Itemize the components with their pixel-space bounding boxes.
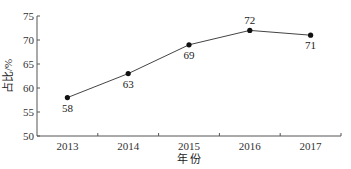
data-label: 69 (184, 49, 196, 61)
x-axis: 20132014201520162017 (37, 133, 341, 152)
x-tick-label: 2013 (56, 140, 79, 152)
x-tick-label: 2014 (117, 140, 140, 152)
y-tick-label: 50 (23, 130, 35, 142)
data-point-marker (126, 71, 131, 76)
y-tick-label: 75 (23, 10, 35, 22)
data-label: 71 (305, 39, 316, 51)
line-chart: 505560657075 20132014201520162017 占比/% 年… (0, 0, 351, 169)
data-point-marker (247, 28, 252, 33)
data-point-marker (186, 42, 191, 47)
data-label: 63 (123, 78, 135, 90)
x-axis-title: 年 份 (177, 152, 202, 165)
y-tick-label: 70 (23, 34, 35, 46)
series-line (67, 30, 310, 97)
y-tick-label: 60 (23, 82, 35, 94)
data-point-marker (308, 33, 313, 38)
data-points: 5863697271 (62, 14, 316, 113)
y-tick-label: 65 (23, 58, 35, 70)
data-point-marker (65, 95, 70, 100)
y-axis: 505560657075 (23, 10, 40, 142)
x-tick-label: 2016 (239, 140, 262, 152)
y-axis-title: 占比/% (1, 59, 14, 93)
x-tick-label: 2017 (300, 140, 323, 152)
x-tick-label: 2015 (178, 140, 201, 152)
y-tick-label: 55 (23, 106, 35, 118)
data-label: 58 (62, 102, 74, 114)
data-label: 72 (244, 14, 255, 26)
